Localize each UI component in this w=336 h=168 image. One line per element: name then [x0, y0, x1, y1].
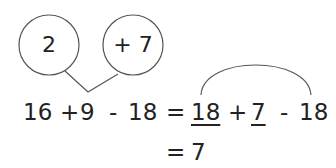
underlined-term: 7: [251, 99, 266, 125]
operator: -: [280, 99, 288, 125]
term: 18: [299, 99, 328, 125]
term: 16: [23, 99, 52, 125]
operator: +: [60, 99, 79, 125]
term: 9: [80, 99, 95, 125]
split-connector: [65, 71, 118, 92]
operator: +: [228, 99, 247, 125]
term: 18: [128, 99, 157, 125]
circle-right-label: + 7: [103, 32, 163, 58]
result: 7: [191, 139, 206, 165]
equals-sign: =: [166, 139, 185, 165]
cancel-arc: [201, 65, 311, 95]
underlined-term: 18: [191, 99, 220, 125]
operator: -: [109, 99, 117, 125]
equals-sign: =: [166, 99, 185, 125]
circle-left-label: 2: [19, 32, 79, 58]
